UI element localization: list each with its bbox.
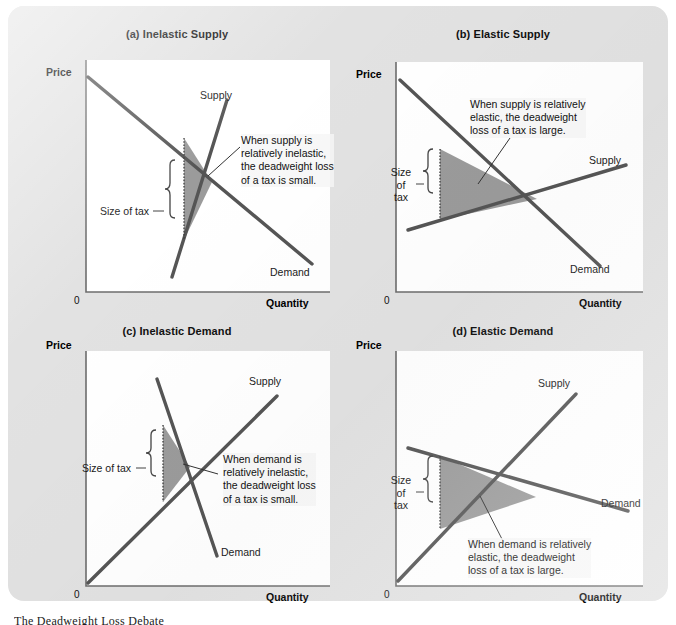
- figure-card: (a) Inelastic Supply: [8, 6, 668, 601]
- callout-line: relatively inelastic,: [241, 147, 334, 160]
- size-of-tax-label: Size of tax: [82, 462, 131, 475]
- plot-area: Price Quantity 0 Supply Demand Size of t…: [12, 311, 342, 606]
- size-of-tax-label: Size of tax: [385, 166, 417, 204]
- callout-line: loss of a tax is large.: [470, 124, 586, 137]
- origin-label: 0: [384, 295, 390, 306]
- panel-elastic-supply: (b) Elastic Supply Price Quantity 0 Supp…: [338, 14, 668, 309]
- callout-line: When demand is: [223, 453, 316, 466]
- callout-line: the deadweight loss: [223, 479, 316, 492]
- callout-line: of a tax is small.: [241, 174, 334, 187]
- size-of-tax-line: Size: [385, 166, 417, 179]
- callout-line: When demand is relatively: [468, 538, 591, 551]
- size-of-tax-line: tax: [385, 499, 417, 512]
- supply-curve-label: Supply: [589, 154, 621, 166]
- demand-curve-label: Demand: [270, 266, 310, 278]
- plot-area: Price Quantity 0 Supply Demand Size of t…: [338, 14, 668, 309]
- supply-curve-label: Supply: [538, 377, 570, 389]
- panel-inelastic-supply: (a) Inelastic Supply: [12, 14, 342, 309]
- panel-inelastic-demand: (c) Inelastic Demand Price Quantity 0 Su…: [12, 311, 342, 606]
- demand-curve-label: Demand: [221, 546, 261, 558]
- callout-box: When demand is relatively elastic, the d…: [468, 538, 591, 578]
- y-axis-label: Price: [46, 339, 72, 351]
- size-of-tax-line: Size: [385, 474, 417, 487]
- demand-curve-label: Demand: [601, 497, 641, 509]
- page-caption-fragment: The Deadweight Loss Debate: [14, 614, 164, 625]
- demand-curve-label: Demand: [570, 263, 610, 275]
- plot-area: Price Quantity 0 Supply Demand Size of t…: [12, 14, 342, 309]
- size-of-tax-label: Size of tax: [385, 474, 417, 512]
- x-axis-label: Quantity: [579, 591, 622, 603]
- callout-line: the deadweight loss: [241, 160, 334, 173]
- supply-curve-label: Supply: [200, 89, 232, 101]
- callout-box: When supply is relatively elastic, the d…: [470, 98, 586, 138]
- supply-curve-label: Supply: [249, 375, 281, 387]
- callout-line: elastic, the deadweight: [470, 111, 586, 124]
- origin-label: 0: [74, 295, 80, 306]
- x-axis-label: Quantity: [579, 297, 622, 309]
- size-of-tax-line: of: [385, 487, 417, 500]
- size-of-tax-line: of: [385, 179, 417, 192]
- plot-area: Price Quantity 0 Supply Demand Size of t…: [338, 311, 668, 606]
- callout-line: elastic, the deadweight: [468, 551, 591, 564]
- callout-box: When supply is relatively inelastic, the…: [241, 134, 334, 187]
- panel-elastic-demand: (d) Elastic Demand Price Quantity 0 Supp…: [338, 311, 668, 606]
- y-axis-label: Price: [356, 68, 382, 80]
- callout-line: When supply is relatively: [470, 98, 586, 111]
- size-of-tax-label: Size of tax: [100, 205, 149, 218]
- callout-line: loss of a tax is large.: [468, 564, 591, 577]
- size-of-tax-line: tax: [385, 191, 417, 204]
- x-axis-label: Quantity: [266, 297, 309, 309]
- origin-label: 0: [74, 589, 80, 600]
- callout-line: When supply is: [241, 134, 334, 147]
- callout-box: When demand is relatively inelastic, the…: [223, 453, 316, 506]
- y-axis-label: Price: [46, 66, 72, 78]
- plot-background: [396, 62, 643, 292]
- x-axis-label: Quantity: [266, 591, 309, 603]
- origin-label: 0: [384, 589, 390, 600]
- y-axis-label: Price: [356, 339, 382, 351]
- callout-line: of a tax is small.: [223, 493, 316, 506]
- callout-line: relatively inelastic,: [223, 466, 316, 479]
